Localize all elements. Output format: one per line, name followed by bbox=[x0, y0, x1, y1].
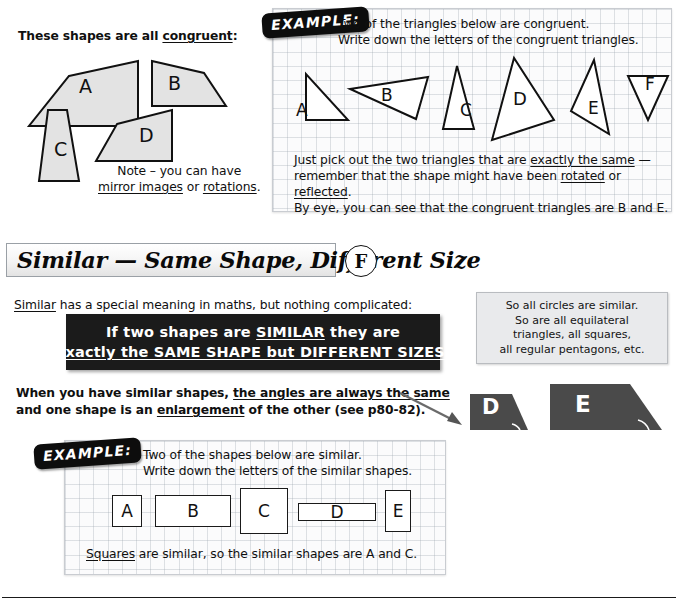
example1-question-line2: Write down the letters of the congruent … bbox=[338, 32, 639, 48]
section-heading-bar: Similar — Same Shape, Different Size bbox=[6, 243, 336, 277]
banner-l2end: . bbox=[445, 344, 451, 360]
banner-l1b: they are bbox=[325, 324, 400, 340]
similar-rect-c: C bbox=[240, 488, 288, 534]
triangle-label-f: F bbox=[645, 74, 655, 94]
example1-answer-line2: remember that the shape might have been … bbox=[294, 168, 678, 200]
similar-explanation: When you have similar shapes, the angles… bbox=[16, 385, 450, 419]
example1-answer-l2b: . bbox=[348, 185, 352, 199]
banner-l1a: If two shapes are bbox=[106, 324, 256, 340]
congruent-shape-b bbox=[152, 61, 226, 106]
similar-intro-rest: has a special meaning in maths, but noth… bbox=[56, 298, 412, 312]
congruent-intro-keyword: congruent bbox=[162, 29, 232, 43]
example2-answer-rest: are similar, so the similar shapes are A… bbox=[135, 547, 417, 561]
dark-label-d: D bbox=[482, 395, 499, 419]
congruent-intro-prefix: These shapes are all bbox=[18, 29, 162, 43]
similar-intro-text: Similar has a special meaning in maths, … bbox=[14, 297, 412, 313]
similar-para-enlargement: enlargement bbox=[157, 403, 245, 417]
similar-rect-e: E bbox=[385, 490, 411, 532]
page-title: Similar — Same Shape, Different Size bbox=[17, 247, 481, 273]
example1-answer-rotated: rotated bbox=[561, 169, 605, 183]
congruent-note: Note – you can have mirror images or rot… bbox=[98, 163, 260, 195]
banner-line1: If two shapes are SIMILAR they are bbox=[106, 322, 400, 342]
similar-rect-d: D bbox=[298, 503, 376, 521]
example1-question-line1: Two of the triangles below are congruent… bbox=[338, 16, 639, 32]
congruent-note-line1: Note – you can have bbox=[98, 163, 260, 179]
example1-answer-or: or bbox=[605, 169, 621, 183]
congruent-note-or: or bbox=[183, 180, 203, 194]
textbook-page: These shapes are all congruent: A B C D … bbox=[0, 0, 678, 606]
sidenote-line1: So all circles are similar. bbox=[506, 299, 639, 314]
example2-question-line2: Write down the letters of the similar sh… bbox=[143, 463, 412, 479]
sidenote-line3: triangles, all squares, bbox=[513, 328, 631, 343]
page-bottom-rule bbox=[2, 597, 676, 598]
similar-para-l1a: When you have similar shapes, bbox=[16, 386, 233, 400]
example2-question-line1: Two of the shapes below are similar. bbox=[143, 447, 412, 463]
congruent-note-mirror: mirror images bbox=[98, 180, 183, 194]
banner-l2u: exactly the SAME SHAPE but DIFFERENT SIZ… bbox=[55, 344, 445, 360]
banner-similar-word: SIMILAR bbox=[256, 324, 325, 340]
example1-answer-l1a: Just pick out the two triangles that are bbox=[294, 153, 530, 167]
triangle-label-b: B bbox=[381, 85, 393, 105]
congruent-intro-text: These shapes are all congruent: bbox=[18, 28, 237, 44]
example1-answer-line3: By eye, you can see that the congruent t… bbox=[294, 200, 678, 216]
example1-answer: Just pick out the two triangles that are… bbox=[294, 152, 678, 216]
similar-rect-a: A bbox=[112, 495, 142, 527]
example2-answer: Squares are similar, so the similar shap… bbox=[86, 546, 417, 562]
similar-intro-keyword: Similar bbox=[14, 298, 56, 312]
similar-para-l2a: and one shape is an bbox=[16, 403, 157, 417]
similar-explanation-line1: When you have similar shapes, the angles… bbox=[16, 385, 450, 402]
similar-rect-b: B bbox=[155, 495, 231, 527]
example1-answer-l1u: exactly the same bbox=[530, 153, 634, 167]
triangle-label-a: A bbox=[296, 100, 308, 120]
example1-triangles-diagram bbox=[288, 58, 678, 153]
congruent-label-a: A bbox=[79, 75, 92, 97]
congruent-label-d: D bbox=[139, 124, 154, 146]
congruent-intro-suffix: : bbox=[233, 29, 238, 43]
example1-answer-l1b: — bbox=[635, 153, 651, 167]
congruent-label-c: C bbox=[54, 138, 67, 160]
similar-explanation-line2: and one shape is an enlargement of the o… bbox=[16, 402, 450, 419]
triangle-label-c: C bbox=[460, 100, 472, 120]
sidenote-line4: all regular pentagons, etc. bbox=[500, 343, 645, 358]
congruent-note-rotations: rotations bbox=[203, 180, 257, 194]
example1-answer-l2a: remember that the shape might have been bbox=[294, 169, 561, 183]
triangle-label-d: D bbox=[513, 88, 527, 109]
example2-question: Two of the shapes below are similar. Wri… bbox=[143, 447, 412, 479]
congruent-label-b: B bbox=[168, 72, 181, 94]
congruent-note-period: . bbox=[257, 180, 261, 194]
dark-label-e: E bbox=[575, 391, 591, 417]
similar-arrow-icon bbox=[398, 390, 473, 432]
example1-answer-line1: Just pick out the two triangles that are… bbox=[294, 152, 678, 168]
triangle-e bbox=[571, 60, 609, 134]
example1-answer-reflected: reflected bbox=[294, 185, 348, 199]
similar-sidenote: So all circles are similar. So are all e… bbox=[476, 292, 668, 364]
similar-definition-banner: If two shapes are SIMILAR they are exact… bbox=[66, 314, 440, 370]
congruent-note-line2: mirror images or rotations. bbox=[98, 179, 260, 195]
example2-answer-keyword: Squares bbox=[86, 547, 135, 561]
banner-line2: exactly the SAME SHAPE but DIFFERENT SIZ… bbox=[55, 342, 450, 362]
sidenote-line2: So are all equilateral bbox=[515, 314, 629, 329]
triangle-label-e: E bbox=[588, 98, 599, 118]
grade-badge-f: F bbox=[345, 245, 377, 277]
triangle-a bbox=[306, 74, 348, 120]
example1-question: Two of the triangles below are congruent… bbox=[338, 16, 639, 48]
